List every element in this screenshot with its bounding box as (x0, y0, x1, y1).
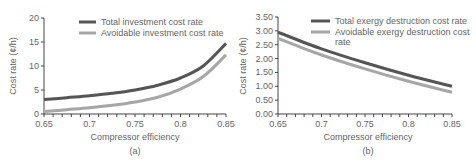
y-tick-label: 1.00 (255, 81, 273, 91)
y-tick-label: 2.50 (255, 40, 273, 50)
legend-label-avoidable-exergy: Avoidable exergy destruction cost (335, 27, 470, 37)
x-tick-label: 0.65 (35, 119, 53, 129)
legend-b: Total exergy destruction cost rate Avoid… (311, 16, 470, 47)
y-tick-label: 3.50 (255, 12, 273, 22)
x-tick-label: 0.8 (402, 119, 415, 129)
legend-label-avoidable-investment: Avoidable investment cost rate (101, 28, 223, 38)
panel-label-a: (a) (130, 146, 141, 156)
y-tick-label: 0.00 (255, 109, 273, 119)
series-line-total (278, 32, 452, 86)
legend-label-avoidable-exergy-cont: rate (335, 37, 351, 47)
x-axis-title-a: Compressor efficiency (91, 132, 180, 142)
y-tick-label: 10 (29, 61, 39, 71)
series-line-avoidable (44, 55, 226, 112)
x-axis-title-b: Compressor efficiency (324, 132, 413, 142)
series-lines-a (44, 43, 226, 111)
x-tick-label: 0.85 (217, 119, 235, 129)
y-axis-title-a: Cost rate (¢/h) (8, 37, 18, 95)
legend-a: Total investment cost rate Avoidable inv… (79, 17, 223, 38)
y-tick-label: 0 (34, 109, 39, 119)
x-tick-label: 0.75 (126, 119, 144, 129)
y-tick-label: 2.00 (255, 54, 273, 64)
series-line-avoidable (278, 38, 452, 92)
y-tick-label: 15 (29, 37, 39, 47)
legend-label-total-exergy: Total exergy destruction cost rate (335, 16, 467, 26)
y-tick-label: 1.50 (255, 67, 273, 77)
legend-label-total-investment: Total investment cost rate (101, 17, 203, 27)
series-lines-b (278, 32, 452, 92)
chart-panel-a: 051015200.650.70.750.80.85 Cost rate (¢/… (8, 13, 235, 156)
y-tick-label: 0.50 (255, 95, 273, 105)
x-tick-label: 0.75 (356, 119, 374, 129)
panel-label-b: (b) (363, 146, 374, 156)
y-tick-label: 5 (34, 85, 39, 95)
x-tick-label: 0.7 (315, 119, 328, 129)
chart-figure: 051015200.650.70.750.80.85 Cost rate (¢/… (0, 0, 476, 162)
x-tick-label: 0.8 (174, 119, 187, 129)
x-tick-label: 0.65 (269, 119, 287, 129)
x-tick-label: 0.85 (443, 119, 461, 129)
y-tick-label: 3.00 (255, 26, 273, 36)
series-line-total (44, 43, 226, 99)
x-tick-label: 0.7 (83, 119, 96, 129)
chart-panel-b: 0.000.501.001.502.002.503.003.500.650.70… (238, 12, 470, 156)
y-axis-title-b: Cost rate (¢/h) (238, 37, 248, 95)
y-tick-label: 20 (29, 13, 39, 23)
